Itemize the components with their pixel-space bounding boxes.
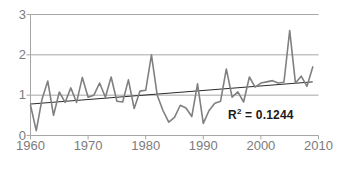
x-axis-tick-label: 2000 bbox=[238, 139, 284, 152]
x-axis-tick-label: 1980 bbox=[123, 139, 169, 152]
x-axis-tick-label: 1960 bbox=[8, 139, 54, 152]
r-squared-prefix: R bbox=[228, 108, 237, 122]
r-squared-suffix: = 0.1244 bbox=[242, 108, 294, 122]
x-axis-tick-label: 2010 bbox=[296, 139, 338, 152]
r-squared-annotation: R2 = 0.1244 bbox=[228, 108, 294, 122]
x-axis-tick-label: 1970 bbox=[65, 139, 111, 152]
x-axis-tick-label: 1990 bbox=[180, 139, 226, 152]
